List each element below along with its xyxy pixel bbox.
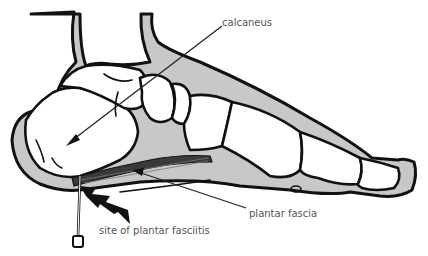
site-label: site of plantar fasciitis bbox=[99, 226, 210, 236]
plantar-fascia-label: plantar fascia bbox=[249, 209, 317, 219]
calcaneus-label: calcaneus bbox=[222, 18, 272, 28]
site-pin-head-icon bbox=[73, 236, 83, 247]
foot-diagram bbox=[0, 0, 428, 256]
